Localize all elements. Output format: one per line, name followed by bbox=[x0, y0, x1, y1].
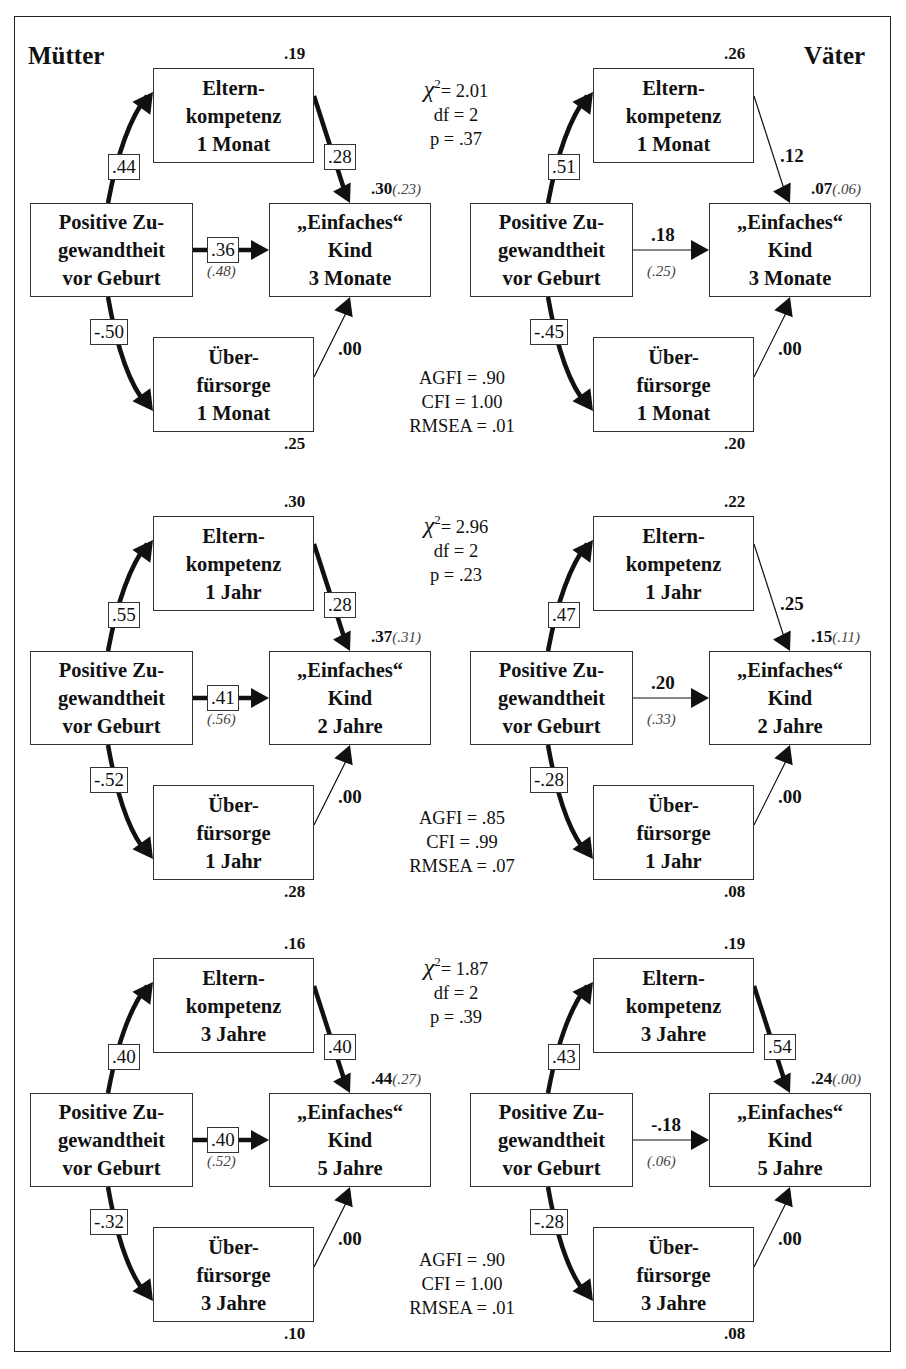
node-time: 3 Monate bbox=[749, 264, 832, 292]
arrow-pred-mediator1 bbox=[108, 986, 147, 1093]
p-value: p = .37 bbox=[376, 127, 536, 151]
coef-pred-mediator2: -.28 bbox=[530, 767, 568, 793]
r2-outcome: .24(.00) bbox=[811, 1069, 861, 1089]
node-label: gewandtheit bbox=[498, 1126, 605, 1154]
r2-alt-value: (.23) bbox=[392, 181, 421, 197]
node-time: 2 Jahre bbox=[757, 712, 822, 740]
node-label: „Einfaches“ bbox=[297, 208, 403, 236]
coef-pred-outcome: .40 bbox=[207, 1127, 239, 1153]
coef-mediator2-outcome: .00 bbox=[778, 787, 802, 807]
agfi-value: AGFI = .85 bbox=[382, 806, 542, 830]
coef-pred-mediator2: -.52 bbox=[90, 767, 128, 793]
node-label: Über- bbox=[208, 791, 258, 819]
node-time: 3 Monate bbox=[309, 264, 392, 292]
arrow-mediator1-outcome bbox=[754, 96, 784, 189]
node-parental-competence: Eltern-kompetenz1 Jahr bbox=[593, 516, 754, 611]
coef-mediator2-outcome: .00 bbox=[338, 339, 362, 359]
node-label: Eltern- bbox=[202, 74, 265, 102]
coef-pred-outcome-alt: (.25) bbox=[647, 263, 676, 280]
node-parental-competence: Eltern-kompetenz3 Jahre bbox=[593, 958, 754, 1053]
fit-stats-indices: AGFI = .90CFI = 1.00RMSEA = .01 bbox=[382, 1248, 542, 1320]
chi-square: χ2= 1.87 bbox=[376, 950, 536, 981]
chi-label: χ bbox=[424, 512, 435, 538]
group-label-fathers: Väter bbox=[804, 42, 865, 70]
node-label: vor Geburt bbox=[62, 1154, 160, 1182]
arrow-mediator1-outcome bbox=[754, 544, 784, 637]
arrowhead-icon bbox=[774, 297, 792, 317]
node-label: kompetenz bbox=[626, 992, 722, 1020]
panel-1: Positive Zu-gewandtheitvor GeburtEltern-… bbox=[0, 0, 906, 445]
node-label: Über- bbox=[648, 1233, 698, 1261]
r2-alt-value: (.31) bbox=[392, 629, 421, 645]
node-label: fürsorge bbox=[196, 819, 270, 847]
node-easy-child: „Einfaches“Kind2 Jahre bbox=[269, 651, 431, 745]
node-time: 1 Jahr bbox=[645, 578, 701, 606]
arrowhead-icon bbox=[691, 688, 709, 708]
coef-pred-outcome: .18 bbox=[651, 225, 675, 245]
node-label: Kind bbox=[328, 684, 372, 712]
node-label: Positive Zu- bbox=[59, 1098, 164, 1126]
coef-mediator1-outcome: .12 bbox=[780, 146, 804, 166]
node-time: 1 Monat bbox=[637, 399, 710, 427]
node-label: vor Geburt bbox=[502, 712, 600, 740]
arrowhead-icon bbox=[774, 745, 792, 765]
node-predictor: Positive Zu-gewandtheitvor Geburt bbox=[30, 1093, 193, 1187]
chi-label: χ bbox=[424, 76, 435, 102]
chi-value: = 2.01 bbox=[441, 81, 488, 101]
node-overprotection: Über-fürsorge1 Jahr bbox=[153, 785, 314, 880]
arrow-pred-mediator1 bbox=[548, 986, 587, 1093]
node-parental-competence: Eltern-kompetenz1 Monat bbox=[153, 68, 314, 163]
cfi-value: CFI = 1.00 bbox=[382, 1272, 542, 1296]
node-overprotection: Über-fürsorge1 Monat bbox=[153, 337, 314, 432]
arrowhead-icon bbox=[251, 1130, 269, 1150]
node-time: 1 Monat bbox=[197, 130, 270, 158]
r2-alt-value: (.11) bbox=[832, 629, 860, 645]
arrowhead-icon bbox=[334, 745, 352, 765]
arrow-pred-mediator1 bbox=[548, 96, 587, 203]
coef-pred-mediator1: .55 bbox=[108, 602, 140, 628]
coef-mediator1-outcome: .40 bbox=[324, 1034, 356, 1060]
node-label: Über- bbox=[648, 343, 698, 371]
node-time: 1 Jahr bbox=[205, 578, 261, 606]
coef-pred-outcome-alt: (.06) bbox=[647, 1153, 676, 1170]
node-label: gewandtheit bbox=[58, 1126, 165, 1154]
r2-value: .24 bbox=[811, 1069, 832, 1088]
coef-pred-mediator2: -.28 bbox=[530, 1209, 568, 1235]
arrow-pred-mediator2 bbox=[548, 297, 587, 405]
chi-square: χ2= 2.01 bbox=[376, 72, 536, 103]
node-label: Eltern- bbox=[642, 522, 705, 550]
node-label: fürsorge bbox=[636, 819, 710, 847]
fit-stats-chi: χ2= 2.96df = 2p = .23 bbox=[376, 508, 536, 587]
r2-mediator1: .26 bbox=[724, 44, 745, 64]
node-predictor: Positive Zu-gewandtheitvor Geburt bbox=[470, 203, 633, 297]
fit-stats-chi: χ2= 1.87df = 2p = .39 bbox=[376, 950, 536, 1029]
node-label: „Einfaches“ bbox=[297, 656, 403, 684]
fit-stats-indices: AGFI = .90CFI = 1.00RMSEA = .01 bbox=[382, 366, 542, 438]
node-overprotection: Über-fürsorge3 Jahre bbox=[593, 1227, 754, 1322]
node-label: Über- bbox=[208, 343, 258, 371]
cfi-value: CFI = .99 bbox=[382, 830, 542, 854]
coef-mediator2-outcome: .00 bbox=[778, 1229, 802, 1249]
node-label: Eltern- bbox=[642, 964, 705, 992]
chi-value: = 1.87 bbox=[441, 959, 488, 979]
coef-mediator2-outcome: .00 bbox=[778, 339, 802, 359]
node-time: 5 Jahre bbox=[317, 1154, 382, 1182]
node-label: vor Geburt bbox=[502, 1154, 600, 1182]
arrow-mediator1-outcome bbox=[314, 96, 344, 189]
node-easy-child: „Einfaches“Kind5 Jahre bbox=[269, 1093, 431, 1187]
r2-outcome: .30(.23) bbox=[371, 179, 421, 199]
group-label-mothers: Mütter bbox=[28, 42, 104, 70]
coef-mediator1-outcome: .28 bbox=[324, 592, 356, 618]
arrowhead-icon bbox=[251, 688, 269, 708]
node-label: „Einfaches“ bbox=[737, 656, 843, 684]
node-label: „Einfaches“ bbox=[737, 208, 843, 236]
r2-mediator1: .19 bbox=[284, 44, 305, 64]
node-time: 5 Jahre bbox=[757, 1154, 822, 1182]
node-predictor: Positive Zu-gewandtheitvor Geburt bbox=[470, 651, 633, 745]
coef-pred-mediator2: -.45 bbox=[530, 319, 568, 345]
r2-value: .30 bbox=[371, 179, 392, 198]
node-time: 3 Jahre bbox=[201, 1020, 266, 1048]
node-label: vor Geburt bbox=[502, 264, 600, 292]
node-label: Kind bbox=[768, 684, 812, 712]
node-label: kompetenz bbox=[626, 550, 722, 578]
